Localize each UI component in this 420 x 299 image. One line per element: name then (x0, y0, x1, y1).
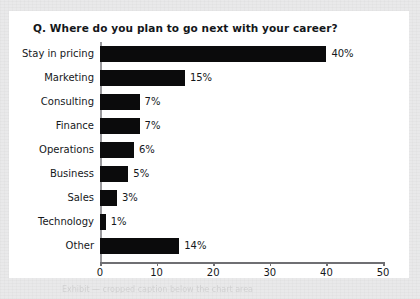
x-axis-line (100, 262, 383, 264)
category-label: Marketing (0, 70, 99, 86)
bar-value-label: 3% (122, 190, 138, 206)
bar (100, 166, 128, 182)
bar-chart-plot-area: Stay in pricing40%Marketing15%Consulting… (10, 12, 408, 277)
x-axis-tick-label: 30 (263, 267, 276, 278)
bar (100, 70, 185, 86)
bar (100, 46, 326, 62)
bar-value-label: 5% (133, 166, 149, 182)
x-axis-tick (213, 262, 215, 266)
bar-value-label: 1% (111, 214, 127, 230)
category-label: Finance (0, 118, 99, 134)
bar-value-label: 15% (190, 70, 212, 86)
chart-panel: Q. Where do you plan to go next with you… (10, 12, 408, 277)
bar-value-label: 6% (139, 142, 155, 158)
bar (100, 142, 134, 158)
x-axis-tick-label: 10 (150, 267, 163, 278)
bar-value-label: 40% (331, 46, 353, 62)
bar-value-label: 14% (184, 238, 206, 254)
bar (100, 214, 106, 230)
category-label: Consulting (0, 94, 99, 110)
x-axis-tick-label: 0 (97, 267, 103, 278)
category-label: Operations (0, 142, 99, 158)
x-axis-tick (100, 262, 102, 266)
x-axis-tick (383, 262, 385, 266)
x-axis-tick-label: 40 (320, 267, 333, 278)
category-label: Stay in pricing (0, 46, 99, 62)
bar-value-label: 7% (145, 118, 161, 134)
bar (100, 118, 140, 134)
x-axis-tick-label: 20 (207, 267, 220, 278)
x-axis-tick (157, 262, 159, 266)
cropped-caption-ghost: Exhibit — cropped caption below the char… (62, 285, 352, 293)
x-axis-tick (326, 262, 328, 266)
category-label: Sales (0, 190, 99, 206)
x-axis-tick (270, 262, 272, 266)
bar (100, 190, 117, 206)
bar-value-label: 7% (145, 94, 161, 110)
category-label: Business (0, 166, 99, 182)
x-axis-tick-label: 50 (377, 267, 390, 278)
bar (100, 238, 179, 254)
bar (100, 94, 140, 110)
category-label: Technology (0, 214, 99, 230)
category-label: Other (0, 238, 99, 254)
